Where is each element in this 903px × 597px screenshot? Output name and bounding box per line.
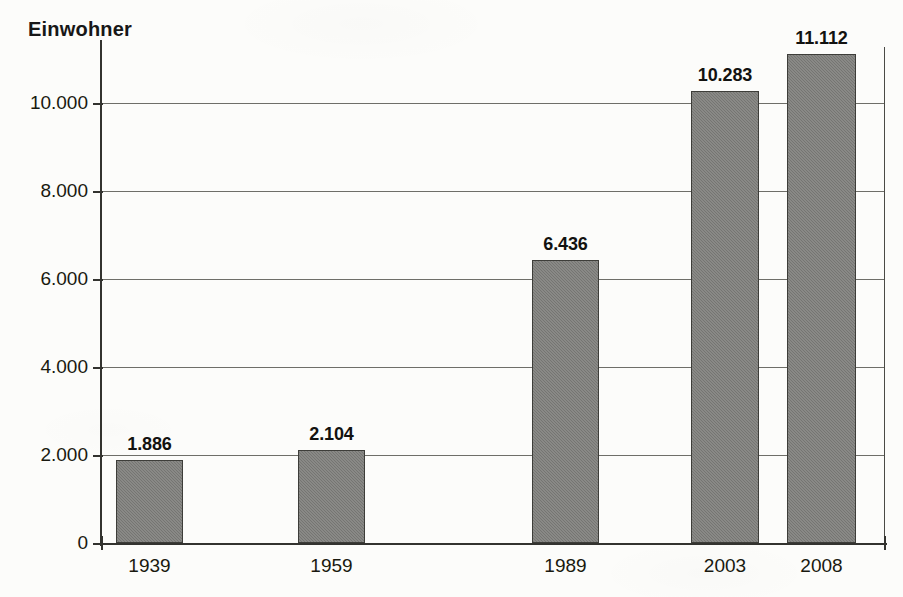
x-axis-label-1989: 1989 [521, 555, 611, 577]
x-axis-label-2008: 2008 [777, 555, 867, 577]
plot-area [102, 47, 885, 543]
bar-value-label-1989: 6.436 [521, 234, 611, 255]
x-axis-tick-end [884, 536, 886, 550]
y-axis-tick-labels: 02.0004.0006.0008.00010.000 [0, 0, 88, 597]
x-axis-line [102, 543, 887, 545]
bar-1939 [116, 460, 183, 543]
gridline [102, 367, 885, 368]
bar-1989 [532, 260, 599, 543]
y-axis-tick-label: 0 [0, 532, 88, 554]
y-axis-tick-label: 8.000 [0, 180, 88, 202]
bar-2003 [691, 91, 759, 543]
plot-right-border [884, 47, 885, 545]
y-axis-tick-mark [93, 191, 103, 193]
gridline [102, 279, 885, 280]
x-axis-label-2003: 2003 [680, 555, 770, 577]
y-axis-tick-mark [93, 103, 103, 105]
bar-value-label-1939: 1.886 [105, 434, 195, 455]
y-axis-tick-label: 4.000 [0, 356, 88, 378]
gridline [102, 455, 885, 456]
y-axis-tick-label: 2.000 [0, 444, 88, 466]
x-axis-label-1939: 1939 [105, 555, 195, 577]
y-axis-line [100, 40, 102, 546]
gridline [102, 103, 885, 104]
y-axis-tick-label: 6.000 [0, 268, 88, 290]
x-axis-label-1959: 1959 [287, 555, 377, 577]
y-axis-tick-mark [93, 367, 103, 369]
bar-1959 [298, 450, 365, 543]
x-axis-tick-start [101, 536, 103, 550]
population-bar-chart: Einwohner 02.0004.0006.0008.00010.000 1.… [0, 0, 903, 597]
y-axis-tick-mark [93, 279, 103, 281]
bar-value-label-2008: 11.112 [777, 28, 867, 49]
bar-value-label-2003: 10.283 [680, 65, 770, 86]
y-axis-tick-label: 10.000 [0, 92, 88, 114]
gridline [102, 191, 885, 192]
y-axis-tick-mark [93, 455, 103, 457]
bar-value-label-1959: 2.104 [287, 424, 377, 445]
bar-2008 [787, 54, 856, 543]
